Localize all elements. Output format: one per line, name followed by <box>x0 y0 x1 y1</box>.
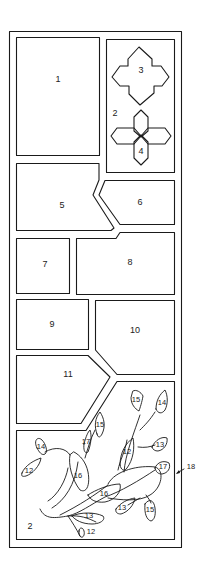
leaf-15-top: 15 <box>131 390 143 411</box>
svg-text:15: 15 <box>132 395 140 404</box>
panel-7-label: 7 <box>42 259 47 269</box>
panel-5-label: 5 <box>59 200 64 210</box>
panel-10-label: 10 <box>130 325 140 335</box>
svg-text:17: 17 <box>82 437 90 446</box>
panel-11-label: 11 <box>63 369 72 379</box>
pattern-diagram: 1 2 3 4 5 6 7 8 9 10 11 2 <box>0 0 205 574</box>
panel-1-label: 1 <box>55 74 60 84</box>
svg-text:14: 14 <box>158 398 166 407</box>
shape-4-label: 4 <box>138 146 143 156</box>
panel-2-top-label: 2 <box>112 108 117 118</box>
svg-text:16: 16 <box>74 471 82 480</box>
svg-text:15: 15 <box>146 505 154 514</box>
svg-text:13: 13 <box>85 511 93 520</box>
svg-text:12: 12 <box>25 466 33 475</box>
callout-18-label: 18 <box>187 462 195 471</box>
panel-1 <box>17 38 100 156</box>
panel-2-bottom-label: 2 <box>27 521 32 531</box>
svg-text:17: 17 <box>159 462 167 471</box>
panel-8 <box>77 233 175 295</box>
svg-text:15: 15 <box>96 420 104 429</box>
leaf-12-bottom: 12 <box>79 527 95 537</box>
svg-text:13: 13 <box>118 503 126 512</box>
panel-8-label: 8 <box>127 257 132 267</box>
shape-3-label: 3 <box>138 65 143 75</box>
svg-text:13: 13 <box>156 440 164 449</box>
panel-9-label: 9 <box>49 319 54 329</box>
callout-18: 18 <box>176 462 195 474</box>
panel-6-label: 6 <box>137 197 142 207</box>
shape-3-cross <box>112 47 169 105</box>
panel-10 <box>96 301 175 375</box>
leaf-17-upper: 17 <box>82 430 91 453</box>
leaf-15-upper: 15 <box>95 412 104 437</box>
leaf-13-lower-right: 13 <box>116 498 135 514</box>
leaf-12-left: 12 <box>22 458 41 476</box>
leaf-16-center: 16 <box>69 452 88 491</box>
svg-text:12: 12 <box>123 447 131 456</box>
leaf-15-lower-right: 15 <box>145 501 155 521</box>
leaf-14-top: 14 <box>156 390 167 413</box>
panel-5 <box>17 164 115 231</box>
svg-text:14: 14 <box>37 442 45 451</box>
leaf-13-right: 13 <box>152 437 167 451</box>
shape-4-flower <box>111 110 171 165</box>
svg-text:16: 16 <box>100 489 108 498</box>
svg-text:12: 12 <box>87 527 95 536</box>
panel-11 <box>17 356 111 424</box>
